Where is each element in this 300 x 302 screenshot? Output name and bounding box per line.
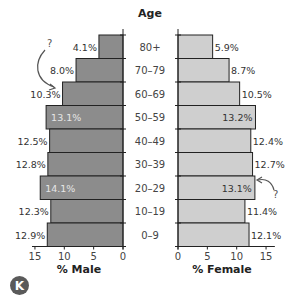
female-value-label: 13.2% [222,112,252,123]
male-value-label: 8.0% [50,65,74,76]
age-category-label: 70–79 [135,65,165,76]
male-value-label: 12.8% [16,159,46,170]
age-category-label: 40–49 [135,136,165,147]
female-bar [178,35,213,59]
female-axis-tick-label: 5 [204,251,210,262]
female-bar [178,129,251,153]
male-bar [51,200,123,224]
question-mark-annotation: ? [47,38,52,49]
female-bar [178,200,245,224]
female-bar [178,59,229,83]
male-bar [99,35,123,59]
female-value-label: 12.7% [255,159,285,170]
female-value-label: 10.5% [242,89,272,100]
male-value-label: 12.9% [15,230,45,241]
population-pyramid-chart: Age 80+4.1%5.9%70–798.0%8.7%60–6910.3%10… [0,0,300,302]
female-value-label: 13.1% [222,183,252,194]
male-axis-tick-label: 5 [90,251,96,262]
curved-arrow-icon [258,179,274,190]
male-bar [48,153,123,177]
male-value-label: 14.1% [45,183,75,194]
female-bar [178,223,249,247]
male-bar [50,129,123,153]
age-category-label: 80+ [139,42,160,53]
male-axis-title: % Male [57,263,101,276]
male-value-label: 10.3% [30,89,60,100]
age-axis-title: Age [138,7,162,20]
bars-group: 80+4.1%5.9%70–798.0%8.7%60–6910.3%10.5%5… [15,35,285,247]
female-bar [178,153,253,177]
male-axis-tick-label: 15 [29,251,42,262]
male-value-label: 4.1% [73,42,97,53]
female-bar [178,82,240,106]
female-axis-tick-label: 10 [230,251,243,262]
age-category-label: 20–29 [135,183,165,194]
age-category-label: 50–59 [135,112,165,123]
female-value-label: 12.1% [251,230,281,241]
age-category-label: 0–9 [141,230,159,241]
male-axis-tick-label: 0 [120,251,126,262]
female-axis-title: % Female [192,263,252,276]
female-value-label: 12.4% [253,136,283,147]
female-value-label: 5.9% [215,42,239,53]
figure-letter-badge: K [10,276,29,295]
female-value-label: 8.7% [231,65,255,76]
female-axis-tick-label: 0 [175,251,181,262]
male-bar [76,59,123,83]
male-bar [47,223,123,247]
age-category-label: 60–69 [135,89,165,100]
male-value-label: 13.1% [51,112,81,123]
male-axis-tick-label: 10 [58,251,71,262]
question-mark-annotation: ? [273,189,278,200]
male-value-label: 12.5% [17,136,47,147]
male-bar [63,82,123,106]
age-category-label: 30–39 [135,159,165,170]
age-category-label: 10–19 [135,206,165,217]
male-value-label: 12.3% [19,206,49,217]
female-value-label: 11.4% [247,206,277,217]
female-axis-tick-label: 15 [260,251,273,262]
